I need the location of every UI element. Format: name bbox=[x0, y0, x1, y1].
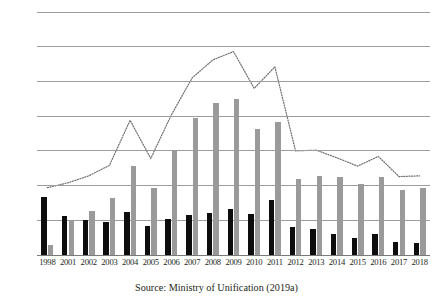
x-tick-label-2007: 2007 bbox=[182, 256, 203, 268]
x-tick-label-2012: 2012 bbox=[285, 256, 306, 268]
x-tick-label-2004: 2004 bbox=[120, 256, 141, 268]
bar-female-2018 bbox=[420, 188, 425, 255]
bar-group bbox=[265, 12, 286, 255]
bar-group bbox=[202, 12, 223, 255]
bar-male-2010 bbox=[248, 214, 253, 255]
x-tick-label-1998: 1998 bbox=[37, 256, 58, 268]
x-tick-label-2016: 2016 bbox=[368, 256, 389, 268]
bar-group bbox=[285, 12, 306, 255]
x-tick-label-2009: 2009 bbox=[223, 256, 244, 268]
bar-female-2008 bbox=[213, 103, 218, 255]
bar-female-2016 bbox=[379, 177, 384, 255]
bar-female-2003 bbox=[110, 198, 115, 255]
bar-group bbox=[37, 12, 58, 255]
bar-male-2016 bbox=[372, 234, 377, 255]
source-caption: Source: Ministry of Unification (2019a) bbox=[0, 282, 433, 294]
bar-female-1998 bbox=[48, 245, 53, 255]
bar-male-2015 bbox=[352, 238, 357, 255]
x-tick-label-2005: 2005 bbox=[140, 256, 161, 268]
bar-male-2007 bbox=[186, 215, 191, 255]
bar-group bbox=[327, 12, 348, 255]
bar-male-2002 bbox=[83, 220, 88, 255]
bar-female-2006 bbox=[172, 150, 177, 255]
bar-group bbox=[306, 12, 327, 255]
bar-male-2006 bbox=[165, 219, 170, 255]
bar-group bbox=[409, 12, 430, 255]
bar-female-2015 bbox=[358, 184, 363, 256]
bar-group bbox=[244, 12, 265, 255]
x-tick-label-2006: 2006 bbox=[161, 256, 182, 268]
x-tick-label-2008: 2008 bbox=[202, 256, 223, 268]
bar-group bbox=[182, 12, 203, 255]
bar-male-2018 bbox=[414, 243, 419, 255]
bar-group bbox=[58, 12, 79, 255]
bar-male-2008 bbox=[207, 213, 212, 255]
bar-female-2010 bbox=[255, 129, 260, 255]
bar-female-2007 bbox=[193, 118, 198, 255]
bar-female-2011 bbox=[275, 122, 280, 255]
bar-male-2013 bbox=[310, 229, 315, 255]
plot-region: 0500100015002000250030003500 bbox=[37, 12, 430, 255]
bar-male-2011 bbox=[269, 200, 274, 255]
x-tick-label-2003: 2003 bbox=[99, 256, 120, 268]
bar-female-2009 bbox=[234, 99, 239, 255]
bar-group bbox=[368, 12, 389, 255]
bar-female-2004 bbox=[131, 166, 136, 255]
bar-female-2005 bbox=[151, 188, 156, 255]
x-tick-label-2010: 2010 bbox=[244, 256, 265, 268]
bar-group bbox=[223, 12, 244, 255]
bar-female-2002 bbox=[89, 211, 94, 255]
bar-group bbox=[78, 12, 99, 255]
x-axis-tick-labels: 1998200120022003200420052006200720082009… bbox=[37, 256, 430, 272]
x-tick-label-2002: 2002 bbox=[78, 256, 99, 268]
bar-male-1998 bbox=[41, 197, 46, 255]
x-tick-label-2001: 2001 bbox=[58, 256, 79, 268]
x-tick-label-2018: 2018 bbox=[409, 256, 430, 268]
bar-group bbox=[389, 12, 410, 255]
bar-female-2014 bbox=[337, 177, 342, 255]
bar-male-2009 bbox=[228, 209, 233, 255]
chart-figure: 0500100015002000250030003500 19982001200… bbox=[0, 0, 433, 305]
bar-group bbox=[120, 12, 141, 255]
bar-male-2005 bbox=[145, 226, 150, 256]
bar-male-2012 bbox=[290, 227, 295, 255]
bar-female-2001 bbox=[69, 221, 74, 255]
bar-group bbox=[140, 12, 161, 255]
x-tick-label-2011: 2011 bbox=[265, 256, 286, 268]
bar-female-2017 bbox=[400, 190, 405, 255]
bar-female-2013 bbox=[317, 176, 322, 255]
x-tick-label-2017: 2017 bbox=[389, 256, 410, 268]
bar-female-2012 bbox=[296, 179, 301, 255]
bar-male-2004 bbox=[124, 212, 129, 255]
bar-male-2017 bbox=[393, 242, 398, 255]
bar-group bbox=[99, 12, 120, 255]
bar-male-2001 bbox=[62, 216, 67, 255]
x-tick-label-2014: 2014 bbox=[327, 256, 348, 268]
bar-male-2014 bbox=[331, 234, 336, 255]
bar-group bbox=[347, 12, 368, 255]
x-tick-label-2013: 2013 bbox=[306, 256, 327, 268]
x-tick-label-2015: 2015 bbox=[347, 256, 368, 268]
bar-male-2003 bbox=[103, 222, 108, 255]
bar-group bbox=[161, 12, 182, 255]
